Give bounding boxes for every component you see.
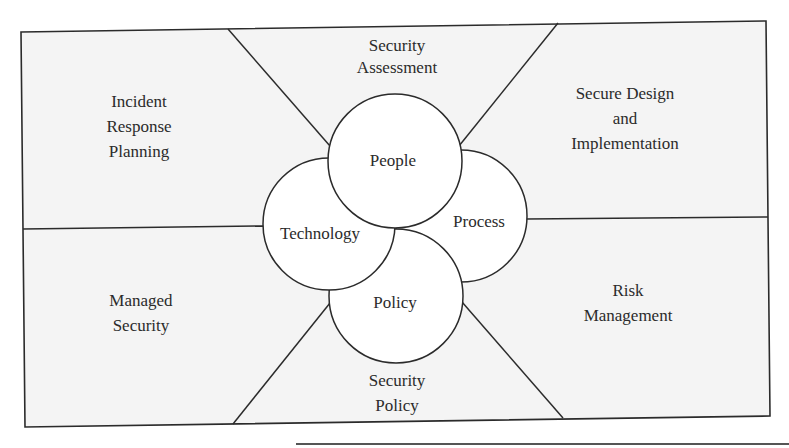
core-label-policy: Policy [373, 293, 416, 313]
region-label-line: Managed [109, 288, 172, 313]
page-rule [296, 443, 789, 445]
region-label-line: and [571, 106, 679, 131]
region-secure-design-implementation: Secure Design and Implementation [571, 81, 679, 156]
region-risk-management: Risk Management [584, 278, 673, 328]
region-label-line: Secure Design [571, 81, 679, 106]
core-label-process: Process [453, 212, 505, 232]
core-label-people: People [370, 151, 416, 171]
region-incident-response-planning: Incident Response Planning [106, 89, 171, 164]
core-label-technology: Technology [280, 224, 360, 244]
region-security-policy: Security Policy [369, 368, 426, 418]
region-label-line: Security [357, 35, 437, 57]
region-label-line: Policy [369, 393, 426, 418]
region-label-line: Assessment [357, 57, 437, 79]
region-label-line: Management [584, 303, 673, 328]
region-label-line: Response [106, 114, 171, 139]
region-managed-security: Managed Security [109, 288, 172, 338]
region-label-line: Risk [584, 278, 673, 303]
region-label-line: Incident [106, 89, 171, 114]
region-security-assessment: Security Assessment [357, 35, 437, 79]
region-label-line: Security [109, 313, 172, 338]
region-label-line: Planning [106, 139, 171, 164]
region-label-line: Security [369, 368, 426, 393]
region-label-line: Implementation [571, 131, 679, 156]
